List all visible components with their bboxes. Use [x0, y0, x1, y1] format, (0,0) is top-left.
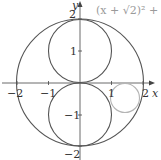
x-axis-label: x	[152, 87, 159, 100]
figure: (x + √2)² + ( y x −2 −1 1 2 2 1 −1 −2	[0, 0, 161, 160]
y-axis-arrow-icon	[78, 1, 83, 7]
x-axis-arrow-icon	[149, 81, 155, 86]
x-tick-2: 2	[142, 87, 149, 100]
x-tick-1: 1	[108, 87, 115, 100]
equation-label: (x + √2)² + (	[96, 4, 161, 17]
x-tick-neg1: −1	[40, 87, 56, 100]
y-tick-neg1: −1	[64, 109, 80, 122]
y-tick-1: 1	[70, 45, 77, 58]
x-tick-neg2: −2	[7, 87, 23, 100]
y-tick-2: 2	[69, 8, 76, 21]
y-tick-neg2: −2	[64, 148, 80, 160]
